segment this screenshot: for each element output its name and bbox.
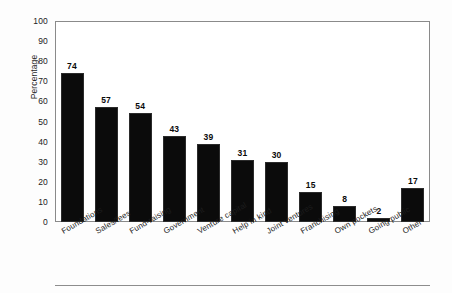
y-tick-label: 60 (18, 96, 48, 106)
y-tick-label: 70 (18, 76, 48, 86)
bar-value-label: 39 (188, 132, 228, 142)
y-tick-label: 20 (18, 177, 48, 187)
bar-value-label: 17 (393, 176, 433, 186)
bar-value-label: 15 (291, 180, 331, 190)
bar (129, 113, 152, 222)
y-tick-label: 90 (18, 36, 48, 46)
bottom-horizontal-rule (55, 285, 430, 286)
bar-value-label: 54 (120, 101, 160, 111)
bar-chart-figure: Percentage 1009080706050403020100 745754… (0, 0, 452, 293)
y-tick-label: 80 (18, 56, 48, 66)
bar (61, 73, 84, 222)
bar-value-label: 30 (257, 150, 297, 160)
bar-value-label: 8 (325, 194, 365, 204)
y-tick-label: 40 (18, 137, 48, 147)
plot-area (55, 21, 430, 222)
y-tick-label: 30 (18, 157, 48, 167)
y-tick-label: 0 (18, 217, 48, 227)
bar-value-label: 74 (52, 61, 92, 71)
y-tick-label: 100 (18, 16, 48, 26)
y-tick-label: 10 (18, 197, 48, 207)
y-tick-label: 50 (18, 117, 48, 127)
